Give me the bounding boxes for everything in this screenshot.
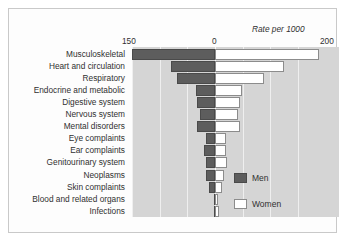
category-label: Genitourinary system	[47, 157, 125, 168]
axis-tick-label-right: 200	[320, 36, 334, 46]
bar-row	[132, 145, 339, 156]
bar-row	[132, 97, 339, 108]
category-label: Endocrine and metabolic	[34, 85, 125, 96]
legend-swatch-women	[234, 199, 247, 209]
bar-row	[132, 121, 339, 132]
legend-label-men: Men	[252, 172, 269, 184]
bar-men	[177, 73, 215, 84]
bar-women	[215, 206, 219, 217]
bars-group	[132, 47, 339, 217]
bar-men	[204, 145, 215, 156]
bar-women	[215, 109, 238, 120]
bar-women	[215, 182, 222, 193]
bar-men	[196, 85, 215, 96]
bar-row	[132, 61, 339, 72]
bar-row	[132, 49, 339, 60]
axis-title: Rate per 1000	[252, 24, 305, 34]
bar-row	[132, 182, 339, 193]
chart-card: Rate per 1000 150 0 200 MusculoskeletalH…	[8, 8, 337, 233]
bar-women	[215, 157, 227, 168]
bar-women	[215, 145, 226, 156]
bar-women	[215, 170, 224, 181]
bar-men	[206, 170, 215, 181]
category-label: Musculoskeletal	[66, 49, 125, 60]
bar-women	[215, 73, 264, 84]
category-label: Heart and circulation	[49, 61, 125, 72]
bar-women	[215, 121, 240, 132]
axis-tick-label-left: 150	[122, 36, 136, 46]
bar-row	[132, 109, 339, 120]
bar-men	[206, 133, 215, 144]
category-label: Neoplasms	[83, 170, 125, 181]
bar-men	[171, 61, 215, 72]
category-label: Nervous system	[66, 109, 125, 120]
bar-women	[215, 85, 242, 96]
bar-men	[132, 49, 215, 60]
category-label: Infections	[89, 206, 125, 217]
axis-tick-label-zero: 0	[212, 36, 217, 46]
bar-women	[215, 49, 319, 60]
category-label: Blood and related organs	[32, 194, 125, 205]
category-label: Mental disorders	[64, 121, 125, 132]
category-label: Respiratory	[83, 73, 125, 84]
bar-women	[215, 133, 226, 144]
bar-women	[215, 194, 218, 205]
bar-row	[132, 157, 339, 168]
category-label: Ear complaints	[70, 145, 125, 156]
category-label: Skin complaints	[67, 182, 125, 193]
bar-men	[200, 109, 215, 120]
bar-men	[197, 121, 215, 132]
bar-women	[215, 97, 240, 108]
bar-men	[197, 97, 215, 108]
category-label: Digestive system	[62, 97, 125, 108]
bar-row	[132, 85, 339, 96]
bar-men	[206, 157, 215, 168]
category-label: Eye complaints	[69, 133, 125, 144]
bar-women	[215, 61, 284, 72]
plot-area	[132, 47, 339, 217]
bar-row	[132, 133, 339, 144]
legend-label-women: Women	[252, 198, 281, 210]
bar-row	[132, 73, 339, 84]
legend-swatch-men	[234, 173, 247, 183]
